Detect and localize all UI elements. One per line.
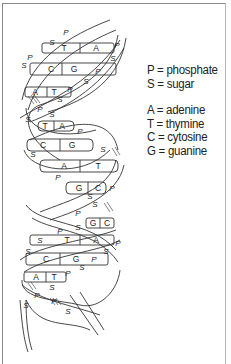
sugar-label: S [103,247,109,256]
base-label: T [61,43,66,53]
sugar-label: S [65,307,71,316]
phosphate-label: P [51,297,57,306]
base-label: A [93,43,99,53]
phosphate-label: P [109,184,115,193]
sugar-label: S [21,61,27,70]
base-label: A [61,161,67,171]
base-label: G [73,254,80,264]
base-label: G [76,183,83,193]
legend-item-guanine: G = guanine [147,145,218,159]
phosphate-label: P [57,227,63,236]
base-label: C [48,64,54,74]
base-label: T [42,121,47,131]
sugar-label: S [100,145,106,154]
phosphate-label: P [55,173,61,182]
sugar-label: S [75,223,81,232]
legend-item-sugar: S = sugar [147,78,218,92]
sugar-label: S [23,301,29,310]
phosphate-label: P [37,105,43,114]
sugar-label: S [110,54,116,63]
legend-item-cytosine: C = cytosine [147,131,218,145]
sugar-label: S [49,38,55,47]
phosphate-label: P [63,28,69,37]
phosphate-label: P [27,53,33,62]
sugar-label: S [83,77,89,86]
base-label: C [43,254,49,264]
base-label: C [104,218,110,228]
phosphate-label: P [34,291,40,300]
dna-helix-illustration: T A C G A T T A C G A T G C G C T A C G … [0,0,231,364]
legend-item-adenine: A = adenine [147,104,218,118]
base-label: G [71,64,78,74]
legend-item-phosphate: P = phosphate [147,64,218,78]
base-label: A [33,272,39,282]
base-label: A [93,235,99,245]
phosphate-label: P [77,127,83,136]
sugar-label: S [49,283,55,292]
sugar-label: S [25,115,31,124]
sugar-label: S [79,263,85,272]
base-label: G [90,218,97,228]
phosphate-label: P [91,255,97,264]
base-label: C [95,183,101,193]
base-label: T [51,272,56,282]
phosphate-label: P [114,41,120,50]
base-label: A [59,121,65,131]
sugar-label: S [57,95,63,104]
sugar-label: S [30,150,36,159]
phosphate-label: P [67,85,73,94]
legend: P = phosphate S = sugar A = adenine T = … [147,64,218,158]
base-label: A [32,87,38,97]
base-label: G [69,140,76,150]
phosphate-label: P [115,239,121,248]
sugar-label: S [49,110,55,119]
sugar-label: S [37,236,43,245]
phosphate-label: P [75,209,81,218]
sugar-label: S [25,247,31,256]
base-label: C [40,140,46,150]
phosphate-label: P [65,269,71,278]
base-label: T [95,161,100,171]
base-label: T [51,87,56,97]
legend-item-thymine: T = thymine [147,118,218,132]
sugar-label: S [92,200,98,209]
base-label: T [64,235,69,245]
phosphate-label: P [95,67,101,76]
